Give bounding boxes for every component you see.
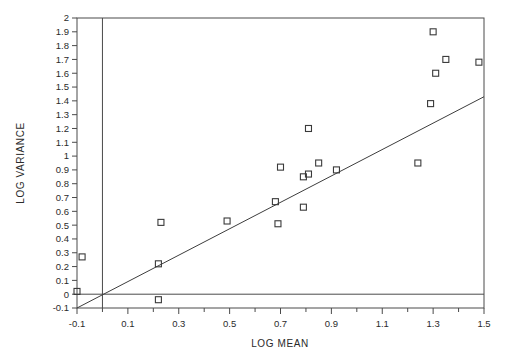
- y-tick-label: 0.5: [56, 220, 69, 231]
- y-tick-label: 0.6: [56, 206, 69, 217]
- y-tick-label: 1.8: [56, 40, 69, 51]
- x-tick-label: 0.9: [325, 318, 338, 329]
- reference-lines: [77, 18, 484, 308]
- y-tick-label: 0.8: [56, 178, 69, 189]
- data-point-marker: [443, 56, 449, 62]
- y-tick-label: 0.7: [56, 192, 69, 203]
- y-tick-label: 2: [64, 12, 69, 23]
- y-tick-label: 1.2: [56, 123, 69, 134]
- scatter-plot-figure: -0.100.10.20.30.40.50.60.70.80.911.11.21…: [0, 0, 510, 356]
- y-tick-label: 0: [64, 289, 69, 300]
- x-tick-label: 0.5: [223, 318, 236, 329]
- data-point-marker: [158, 219, 164, 225]
- y-tick-label: -0.1: [53, 302, 69, 313]
- data-point-marker: [430, 29, 436, 35]
- y-tick-label: 0.9: [56, 164, 69, 175]
- y-tick-label: 1.3: [56, 109, 69, 120]
- regression-line: [77, 97, 484, 308]
- x-axis-tick-labels: -0.10.10.30.50.70.91.11.31.5: [69, 318, 491, 329]
- y-tick-label: 1.1: [56, 137, 69, 148]
- data-point-marker: [476, 59, 482, 65]
- y-tick-label: 1: [64, 150, 69, 161]
- x-tick-label: 1.1: [376, 318, 389, 329]
- y-tick-label: 1.7: [56, 54, 69, 65]
- y-tick-label: 0.4: [56, 233, 69, 244]
- y-axis-title: LOG VARIANCE: [15, 122, 26, 203]
- y-tick-label: 1.9: [56, 26, 69, 37]
- y-tick-label: 1.5: [56, 81, 69, 92]
- plot-canvas: -0.100.10.20.30.40.50.60.70.80.911.11.21…: [0, 0, 510, 356]
- data-point-marker: [224, 218, 230, 224]
- data-point-marker: [275, 221, 281, 227]
- data-point-marker: [79, 254, 85, 260]
- data-point-marker: [415, 160, 421, 166]
- x-tick-label: 0.3: [172, 318, 185, 329]
- y-axis-tick-labels: -0.100.10.20.30.40.50.60.70.80.911.11.21…: [53, 12, 69, 313]
- x-tick-label: 1.3: [427, 318, 440, 329]
- data-point-markers: [74, 29, 482, 303]
- data-point-marker: [316, 160, 322, 166]
- x-axis-title: LOG MEAN: [251, 338, 309, 349]
- data-point-marker: [155, 297, 161, 303]
- x-tick-label: 0.7: [274, 318, 287, 329]
- y-tick-label: 0.2: [56, 261, 69, 272]
- y-axis-tick-marks: [72, 18, 77, 308]
- x-tick-label: 1.5: [477, 318, 490, 329]
- y-tick-label: 1.4: [56, 95, 69, 106]
- data-point-marker: [433, 70, 439, 76]
- y-tick-label: 1.6: [56, 68, 69, 79]
- y-tick-label: 0.1: [56, 275, 69, 286]
- data-point-marker: [300, 204, 306, 210]
- x-tick-label: -0.1: [69, 318, 85, 329]
- x-axis-tick-marks: [77, 308, 484, 314]
- x-tick-label: 0.1: [121, 318, 134, 329]
- plot-frame-border: [77, 18, 484, 308]
- data-point-marker: [428, 101, 434, 107]
- y-tick-label: 0.3: [56, 247, 69, 258]
- data-point-marker: [278, 164, 284, 170]
- data-point-marker: [305, 125, 311, 131]
